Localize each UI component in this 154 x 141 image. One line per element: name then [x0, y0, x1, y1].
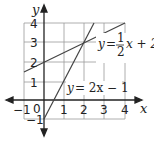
x-axis-label: x — [140, 101, 148, 116]
eq1-y: y — [97, 37, 105, 51]
x-tick-1: 1 — [60, 103, 68, 117]
x-tick-4: 4 — [121, 103, 129, 117]
equation-label-2: y = 2x − 1 — [66, 81, 129, 95]
origin-label: 0 — [33, 102, 41, 116]
y-tick-4: 4 — [30, 17, 38, 31]
y-axis-up-arrow-icon — [41, 5, 47, 12]
eq2-rest: = 2x − 1 — [75, 81, 129, 95]
y-axis-down-arrow-icon — [41, 129, 47, 136]
coordinate-plane: y x 4 3 2 1 −1 0 −1 1 2 3 4 y = 1 2 x + … — [0, 0, 154, 141]
eq1-numerator: 1 — [117, 31, 125, 45]
x-tick-minus-1: −1 — [13, 103, 31, 117]
eq1-denominator: 2 — [117, 45, 125, 59]
y-tick-3: 3 — [30, 36, 38, 50]
x-axis-left-arrow-icon — [6, 97, 13, 103]
x-tick-2: 2 — [80, 103, 88, 117]
eq1-rest: x + 2 — [126, 37, 154, 51]
y-axis-label: y — [31, 2, 40, 17]
eq1-equals: = — [106, 37, 116, 51]
y-tick-2: 2 — [30, 56, 38, 70]
equation-label-1: y = 1 2 x + 2 — [96, 31, 154, 63]
x-tick-3: 3 — [100, 103, 108, 117]
y-tick-1: 1 — [30, 76, 38, 90]
eq2-y: y — [66, 81, 74, 95]
